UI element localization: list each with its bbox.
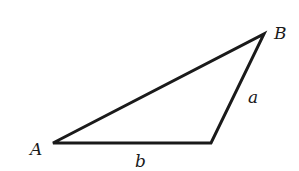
triangle-shape [53,34,264,143]
vertex-label-b: B [273,23,287,43]
side-label-b: b [135,151,146,171]
vertex-label-a: A [28,139,42,159]
triangle-diagram: A B a b [0,0,299,171]
side-label-a: a [248,87,258,107]
